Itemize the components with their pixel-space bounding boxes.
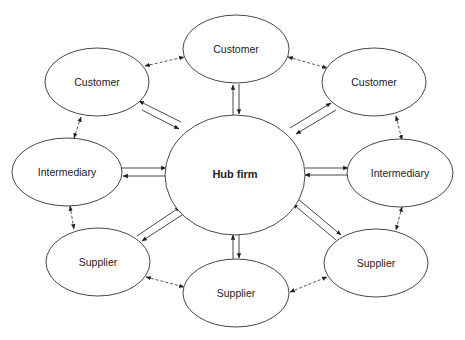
arrow-supplier-right-to-hub (293, 204, 336, 240)
node-customer-top: Customer (183, 15, 289, 83)
dashed-arrow-supplier-left-supplier-bottom (146, 277, 184, 287)
node-intermediary-left: Intermediary (12, 138, 122, 206)
customer-left-label: Customer (74, 76, 120, 88)
arrow-customer-left-to-hub (142, 110, 179, 129)
dashed-arrow-customer-left-intermediary-left (74, 117, 81, 138)
intermediary-left-label: Intermediary (38, 166, 97, 178)
arrow-customer-right-to-hub (296, 110, 336, 134)
dashed-arrow-intermediary-right-supplier-right (396, 207, 402, 230)
node-supplier-left: Supplier (46, 228, 150, 296)
arrow-supplier-left-to-hub (137, 207, 180, 236)
node-customer-right: Customer (322, 48, 426, 116)
arrow-hub-to-supplier-right (298, 199, 341, 235)
hub-firm-network-diagram: Hub firm Customer Customer Customer Inte… (0, 0, 465, 340)
intermediary-right-label: Intermediary (371, 167, 430, 179)
node-customer-left: Customer (45, 48, 149, 116)
node-supplier-right: Supplier (324, 229, 428, 297)
customer-top-label: Customer (213, 43, 259, 55)
supplier-right-label: Supplier (357, 257, 396, 269)
dashed-arrow-customer-right-intermediary-right (396, 116, 402, 140)
hub-label: Hub firm (212, 168, 257, 180)
node-supplier-bottom: Supplier (183, 259, 289, 327)
arrow-hub-to-customer-right (290, 103, 331, 128)
dashed-arrow-intermediary-left-supplier-left (70, 206, 74, 229)
arrow-hub-to-supplier-left (142, 213, 185, 241)
dashed-arrow-customer-left-customer-top (145, 57, 184, 66)
customer-right-label: Customer (351, 76, 397, 88)
supplier-left-label: Supplier (79, 256, 118, 268)
dashed-arrow-supplier-bottom-supplier-right (290, 277, 327, 292)
dashed-arrow-customer-top-customer-right (288, 57, 327, 68)
node-intermediary-right: Intermediary (347, 139, 453, 207)
supplier-bottom-label: Supplier (217, 287, 256, 299)
node-hub-firm: Hub firm (165, 115, 305, 235)
